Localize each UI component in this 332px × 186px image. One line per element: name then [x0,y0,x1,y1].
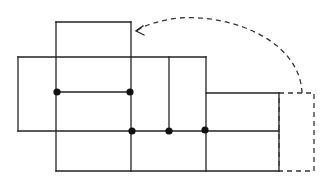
arrowhead-icon [136,26,144,35]
vertex-dot [128,127,135,134]
fold-direction-arrow [136,18,302,93]
dashed-flap [279,93,314,171]
box-net-diagram [0,0,332,186]
vertex-dot [53,88,60,95]
net-fold-lines [18,22,279,171]
vertex-dot [165,127,172,134]
vertex-dot [201,126,208,133]
vertex-dot [126,88,133,95]
